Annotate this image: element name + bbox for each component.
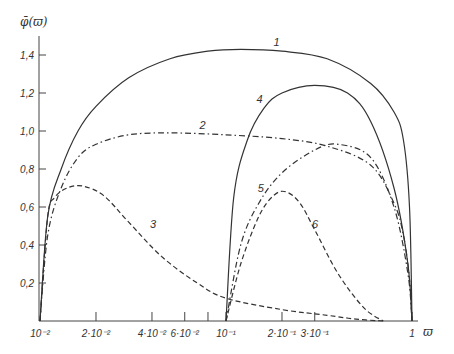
curves [40, 49, 412, 321]
y-axis-title: φ̄(ϖ) [20, 15, 48, 29]
curve-5 [226, 144, 412, 321]
y-tick-label: 0,4 [20, 240, 34, 251]
curve-2 [40, 133, 412, 321]
y-ticks: 0,20,40,60,81,01,21,4 [20, 50, 46, 289]
curve-4 [226, 85, 412, 321]
curve-label-3: 3 [150, 218, 157, 230]
x-tick-label: 2·10⁻² [81, 328, 111, 339]
curve-label-1: 1 [273, 36, 279, 48]
x-axis-title: ϖ [423, 325, 434, 339]
y-tick-label: 0,2 [20, 278, 34, 289]
curve-label-5: 5 [258, 182, 265, 194]
x-tick-label: 3·10⁻¹ [301, 328, 330, 339]
curve-label-2: 2 [198, 119, 205, 131]
x-tick-label: 4·10⁻² [138, 328, 167, 339]
curve-label-6: 6 [312, 218, 319, 230]
x-tick-label: 2·10⁻¹ [267, 328, 297, 339]
x-tick-label: 10⁻¹ [216, 328, 236, 339]
x-ticks: 10⁻²2·10⁻²4·10⁻²6·10⁻²10⁻¹2·10⁻¹3·10⁻¹1 [30, 312, 415, 339]
curve-3 [40, 186, 383, 321]
y-tick-label: 1,4 [20, 50, 34, 61]
chart: 0,20,40,60,81,01,21,4 10⁻²2·10⁻²4·10⁻²6·… [0, 0, 454, 354]
y-tick-label: 1,2 [20, 88, 34, 99]
curve-6 [226, 191, 383, 321]
y-tick-label: 0,6 [20, 202, 34, 213]
y-tick-label: 1,0 [20, 126, 34, 137]
x-tick-label: 10⁻² [30, 328, 50, 339]
x-tick-label: 1 [409, 328, 415, 339]
curve-label-4: 4 [257, 93, 263, 105]
x-tick-label: 6·10⁻² [171, 328, 200, 339]
curve-1 [40, 49, 412, 321]
y-tick-label: 0,8 [20, 164, 34, 175]
